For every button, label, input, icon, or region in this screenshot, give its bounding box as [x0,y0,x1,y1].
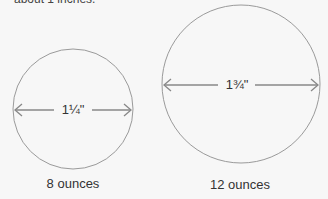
size-diagram [0,0,328,199]
large-diameter-label: 1¾" [220,77,254,92]
large-caption: 12 ounces [200,177,280,192]
small-caption: 8 ounces [33,176,113,191]
small-diameter-label: 1¼" [56,102,90,117]
